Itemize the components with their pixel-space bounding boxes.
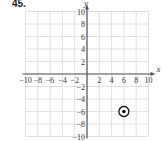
- y-tick-label: −10: [72, 133, 85, 141]
- x-tick-label: 4: [110, 76, 114, 85]
- x-axis-label: x: [156, 64, 161, 74]
- x-tick-label: 8: [134, 76, 138, 85]
- x-tick-label: −8: [34, 76, 43, 85]
- x-tick-label: −6: [46, 76, 55, 85]
- y-tick-label: 6: [81, 33, 85, 42]
- y-tick-label: −4: [76, 95, 85, 104]
- y-tick-label: 2: [81, 58, 85, 67]
- tick-labels: xy−10−8−6−4−2246810108642−2−4−6−8−10: [19, 0, 160, 140]
- axes: [23, 5, 156, 139]
- y-tick-label: 8: [81, 20, 85, 29]
- point-dot-icon: [122, 110, 126, 114]
- data-points: [119, 107, 129, 117]
- x-tick-label: −4: [58, 76, 67, 85]
- y-tick-label: −2: [76, 83, 85, 92]
- x-tick-label: 10: [145, 76, 153, 85]
- coordinate-plane: xy−10−8−6−4−2246810108642−2−4−6−8−10: [0, 0, 162, 140]
- y-tick-label: −8: [76, 120, 85, 129]
- y-tick-label: 4: [81, 45, 85, 54]
- x-tick-label: −10: [19, 76, 32, 85]
- y-tick-label: 10: [77, 8, 85, 17]
- y-tick-label: −6: [76, 108, 85, 117]
- x-tick-label: 6: [122, 76, 126, 85]
- x-tick-label: 2: [97, 76, 101, 85]
